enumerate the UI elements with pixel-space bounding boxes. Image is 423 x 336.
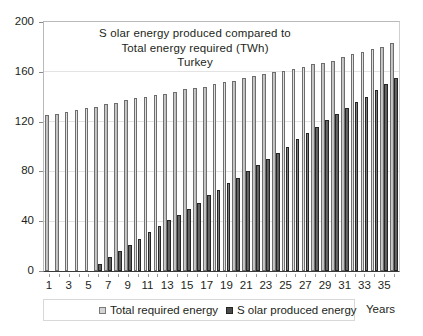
bars-layer [44,22,399,271]
bar-solar-produced-energy [227,183,231,271]
bar-group [380,22,388,271]
x-tick-mark [384,274,385,277]
bar-group [292,22,300,271]
bar-solar-produced-energy [394,78,398,271]
bar-group [45,22,53,271]
x-tick-label: 13 [161,279,174,291]
legend-label-total: Total required energy [110,304,218,317]
x-tick-mark [236,274,237,277]
x-tick-mark [266,274,267,277]
y-tick-label: 40 [21,215,34,227]
bar-group [163,22,171,271]
chart-container: S olar energy produced compared to Total… [0,0,423,336]
x-axis-title: Years [366,303,395,316]
x-tick-label: 31 [338,279,351,291]
x-tick-label: 5 [85,279,91,291]
bar-group [114,22,122,271]
bar-solar-produced-energy [167,220,171,271]
bar-solar-produced-energy [246,171,250,271]
x-tick-mark [148,274,149,277]
y-tick-mark [39,122,43,123]
bar-total-required-energy [65,112,69,271]
x-tick-mark [59,274,60,277]
bar-solar-produced-energy [177,215,181,271]
bar-solar-produced-energy [315,127,319,271]
x-tick-mark [79,274,80,277]
x-tick-mark [305,274,306,277]
x-tick-mark [355,274,356,277]
x-tick-mark [49,274,50,277]
y-tick-label: 120 [15,116,34,128]
bar-group [94,22,102,271]
bar-solar-produced-energy [148,232,152,271]
bar-group [55,22,63,271]
x-tick-mark [108,274,109,277]
x-tick-mark [335,274,336,277]
x-tick-mark [325,274,326,277]
bar-total-required-energy [85,108,89,271]
bar-solar-produced-energy [384,84,388,271]
bar-group [223,22,231,271]
bar-group [213,22,221,271]
bar-solar-produced-energy [256,165,260,271]
bar-solar-produced-energy [158,226,162,271]
bar-group [242,22,250,271]
bar-group [252,22,260,271]
bar-group [361,22,369,271]
bar-group [302,22,310,271]
y-tick-label: 200 [15,16,34,28]
bar-total-required-energy [75,110,79,271]
x-tick-label: 3 [65,279,71,291]
x-tick-mark [315,274,316,277]
bar-solar-produced-energy [345,108,349,271]
bar-group [341,22,349,271]
x-tick-mark [98,274,99,277]
bar-solar-produced-energy [375,90,379,271]
x-tick-mark [177,274,178,277]
bar-solar-produced-energy [276,153,280,271]
bar-group [262,22,270,271]
bar-solar-produced-energy [355,102,359,271]
x-tick-mark [69,274,70,277]
bar-solar-produced-energy [207,195,211,271]
legend-item-solar: S olar produced energy [226,304,357,317]
x-tick-mark [276,274,277,277]
x-tick-label: 9 [125,279,131,291]
bar-group [351,22,359,271]
bar-group [75,22,83,271]
x-tick-mark [118,274,119,277]
bar-group [183,22,191,271]
legend-swatch-solar-icon [226,307,233,314]
bar-group [65,22,73,271]
x-tick-mark [88,274,89,277]
bar-solar-produced-energy [286,147,290,272]
bar-group [134,22,142,271]
chart-legend: Total required energy S olar produced en… [43,299,355,321]
x-tick-label: 27 [299,279,312,291]
legend-item-total: Total required energy [99,304,218,317]
bar-group [390,22,398,271]
legend-swatch-total-icon [99,307,106,314]
bar-group [321,22,329,271]
x-tick-label: 21 [240,279,253,291]
x-tick-mark [167,274,168,277]
x-tick-label: 25 [279,279,292,291]
bar-group [104,22,112,271]
bar-solar-produced-energy [108,257,112,271]
x-tick-mark [226,274,227,277]
x-tick-mark [256,274,257,277]
bar-group [232,22,240,271]
y-tick-mark [39,171,43,172]
x-tick-mark [345,274,346,277]
x-tick-label: 11 [142,279,154,291]
bar-total-required-energy [114,103,118,271]
bar-solar-produced-energy [197,203,201,271]
x-tick-mark [246,274,247,277]
x-tick-label: 35 [378,279,391,291]
bar-group [173,22,181,271]
bar-solar-produced-energy [266,159,270,271]
bar-total-required-energy [94,107,98,271]
x-tick-mark [197,274,198,277]
bar-group [371,22,379,271]
bar-solar-produced-energy [325,120,329,271]
